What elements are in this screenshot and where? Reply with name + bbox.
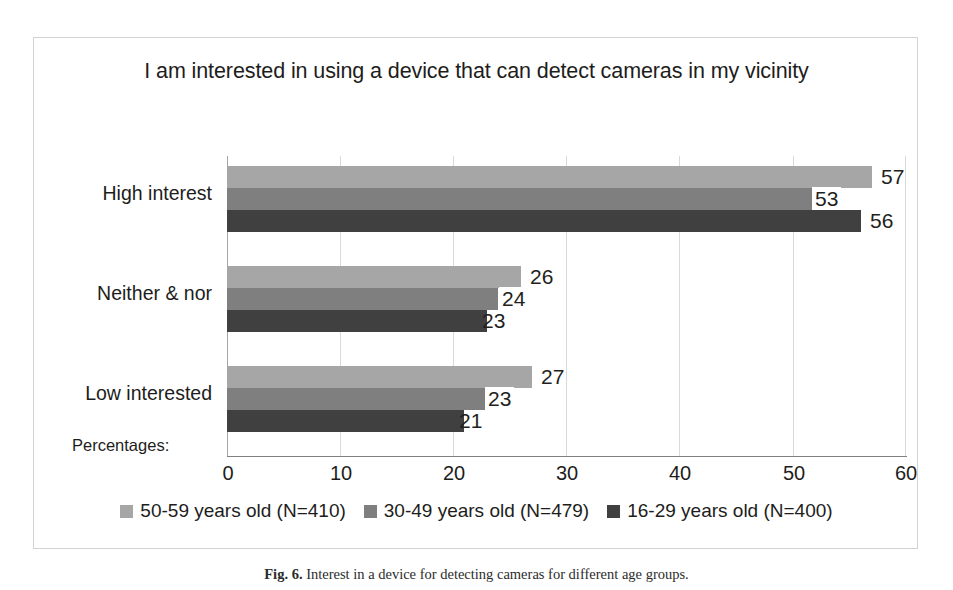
- legend-label: 16-29 years old (N=400): [627, 500, 832, 522]
- legend-swatch-icon: [120, 505, 133, 518]
- value-axis-baseline: [227, 456, 907, 457]
- figure-caption: Fig. 6. Interest in a device for detecti…: [0, 566, 953, 583]
- legend-label: 50-59 years old (N=410): [140, 500, 345, 522]
- x-tick-10: 10: [330, 462, 352, 485]
- bar-50-59-neither[interactable]: [227, 266, 521, 288]
- value-axis-tick-labels: 0 10 20 30 40 50 60: [227, 462, 907, 492]
- bar-value-label: 53: [812, 187, 841, 211]
- figure-caption-label: Fig. 6.: [264, 566, 302, 582]
- legend-swatch-icon: [607, 505, 620, 518]
- bar-value-label: 27: [538, 365, 567, 389]
- bar-50-59-high[interactable]: [227, 166, 872, 188]
- bar-group-neither-nor: 26 24 23: [227, 266, 906, 336]
- category-label-neither-nor: Neither & nor: [97, 282, 212, 305]
- chart-legend: 50-59 years old (N=410) 30-49 years old …: [34, 500, 919, 522]
- x-tick-50: 50: [783, 462, 805, 485]
- category-label-low-interested: Low interested: [85, 382, 212, 405]
- bar-value-label: 24: [499, 287, 528, 311]
- bar-50-59-low[interactable]: [227, 366, 532, 388]
- bar-value-label: 26: [527, 265, 556, 289]
- legend-swatch-icon: [364, 505, 377, 518]
- x-tick-0: 0: [222, 462, 233, 485]
- bar-16-29-high[interactable]: [227, 210, 861, 232]
- category-label-high-interest: High interest: [103, 182, 212, 205]
- chart-title: I am interested in using a device that c…: [104, 56, 849, 87]
- figure-container: I am interested in using a device that c…: [0, 0, 953, 590]
- bar-value-label: 57: [878, 165, 907, 189]
- legend-item-30-49[interactable]: 30-49 years old (N=479): [364, 500, 589, 522]
- bar-value-label: 23: [479, 309, 508, 333]
- x-tick-30: 30: [556, 462, 578, 485]
- bar-value-label: 23: [485, 387, 514, 411]
- legend-item-50-59[interactable]: 50-59 years old (N=410): [120, 500, 345, 522]
- figure-caption-text: Interest in a device for detecting camer…: [306, 566, 689, 582]
- bar-30-49-low[interactable]: [227, 388, 487, 410]
- legend-item-16-29[interactable]: 16-29 years old (N=400): [607, 500, 832, 522]
- plot-area: 57 53 56 26 24: [227, 156, 906, 456]
- x-tick-20: 20: [443, 462, 465, 485]
- x-tick-40: 40: [669, 462, 691, 485]
- bar-value-label: 56: [867, 209, 896, 233]
- bar-16-29-neither[interactable]: [227, 310, 487, 332]
- category-axis-labels: High interest Neither & nor Low interest…: [34, 156, 212, 456]
- percentages-note: Percentages:: [72, 436, 169, 455]
- bar-30-49-high[interactable]: [227, 188, 827, 210]
- x-tick-60: 60: [895, 462, 917, 485]
- bar-30-49-neither[interactable]: [227, 288, 498, 310]
- legend-label: 30-49 years old (N=479): [384, 500, 589, 522]
- chart-frame: I am interested in using a device that c…: [33, 37, 918, 549]
- bar-group-low-interested: 27 23 21: [227, 366, 906, 436]
- bar-value-label: 21: [456, 409, 485, 433]
- bar-group-high-interest: 57 53 56: [227, 166, 906, 236]
- bar-16-29-low[interactable]: [227, 410, 464, 432]
